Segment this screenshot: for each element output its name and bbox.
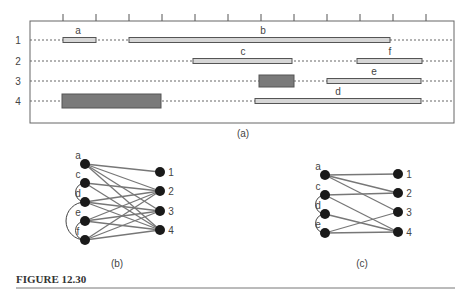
track-node [393,188,403,198]
segment-node [80,197,90,207]
assignment-edge [325,195,398,232]
segment-label: f [389,46,392,57]
segment-node [320,190,330,200]
channel-routing-chart: 1234abcfed [15,14,454,123]
net-segment [357,59,422,64]
segment-label: c [241,46,246,57]
figure-label: FIGURE 12.30 [16,273,87,285]
node-label: 4 [406,227,412,238]
track-node [155,186,165,196]
node-label: a [75,150,81,161]
track-node [393,169,403,179]
node-label: c [316,181,321,192]
track-label: 2 [15,56,21,67]
segment-label: d [335,86,341,97]
segment-node [80,178,90,188]
segment-label: e [371,66,377,77]
node-label: 1 [168,167,174,178]
track-node [155,225,165,235]
segment-label: b [260,25,266,36]
node-label: e [315,219,321,230]
segment-node [320,209,330,219]
track-node [393,227,403,237]
assignment-edge [325,232,398,233]
track-label: 4 [15,96,21,107]
node-label: a [315,161,321,172]
segment-label: a [75,25,81,36]
node-label: 3 [168,206,174,217]
assignment-edge [325,174,398,175]
segment-node [320,228,330,238]
bipartite-graph-c: acde1234 [315,161,412,238]
track-node [155,206,165,216]
node-label: d [315,200,321,211]
segment-node [80,235,90,245]
net-segment [255,99,421,104]
net-segment [327,79,421,84]
segment-node [80,216,90,226]
bipartite-graph-b: acdef1234 [66,150,174,245]
node-label: c [76,169,81,180]
segment-node [320,170,330,180]
node-label: 2 [168,186,174,197]
obstacle-block [259,75,294,87]
track-label: 1 [15,35,21,46]
node-label: 3 [406,207,412,218]
caption-c: (c) [356,258,368,269]
node-label: f [77,226,80,237]
assignment-edge [85,191,160,202]
track-node [155,167,165,177]
caption-b: (b) [111,258,123,269]
node-label: 1 [406,169,412,180]
net-segment [63,38,96,43]
node-label: e [75,207,81,218]
figure-canvas: 1234abcfed (a) acdef1234 (b) acde1234 (c… [0,0,471,295]
node-label: 2 [406,188,412,199]
node-label: d [75,188,81,199]
obstacle-block [62,94,161,108]
assignment-edge [325,175,398,193]
caption-a: (a) [237,128,249,139]
track-node [393,207,403,217]
node-label: 4 [168,225,174,236]
net-segment [129,38,390,43]
segment-node [80,159,90,169]
net-segment [193,59,292,64]
track-label: 3 [15,76,21,87]
